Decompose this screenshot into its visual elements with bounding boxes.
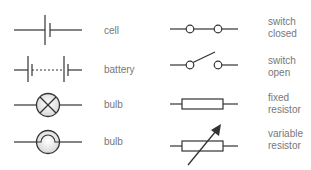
label-battery: battery	[104, 64, 135, 76]
label-variable-resistor-line1: variable	[268, 128, 303, 140]
label-cell: cell	[104, 25, 119, 37]
bulb-cross-icon	[12, 92, 84, 118]
label-switch-open-line2: open	[268, 67, 296, 79]
label-bulb-filament: bulb	[104, 136, 123, 148]
cell-icon	[12, 12, 84, 48]
fixed-resistor-icon	[168, 92, 240, 116]
label-fixed-resistor-line2: resistor	[268, 104, 301, 116]
label-fixed-resistor-line1: fixed	[268, 92, 301, 104]
label-fixed-resistor: fixed resistor	[268, 92, 301, 116]
label-switch-closed-line1: switch	[268, 16, 297, 28]
switch-open-icon	[168, 48, 240, 74]
label-switch-open-line1: switch	[268, 55, 296, 67]
label-switch-open: switch open	[268, 55, 296, 79]
switch-closed-icon	[168, 18, 240, 38]
bulb-filament-icon	[12, 129, 84, 155]
label-variable-resistor-line2: resistor	[268, 140, 303, 152]
label-switch-closed-line2: closed	[268, 28, 297, 40]
label-variable-resistor: variable resistor	[268, 128, 303, 152]
label-switch-closed: switch closed	[268, 16, 297, 40]
variable-resistor-icon	[168, 122, 240, 170]
label-bulb-cross: bulb	[104, 99, 123, 111]
battery-icon	[12, 52, 84, 84]
